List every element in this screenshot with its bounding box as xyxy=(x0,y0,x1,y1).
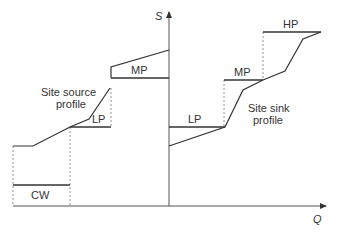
site-profiles-diagram: S Q MP LP CW Site source profile LP MP H… xyxy=(0,0,337,234)
source-cw-label: CW xyxy=(31,189,50,201)
site-sink-profile-curve xyxy=(169,32,321,146)
source-mp-label: MP xyxy=(131,64,148,76)
sink-hp-label: HP xyxy=(283,18,298,30)
site-sink-profile-label-2: profile xyxy=(253,114,283,126)
site-source-profile-label: Site source xyxy=(41,86,96,98)
site-source-profile-label-2: profile xyxy=(56,98,86,110)
sink-mp-label: MP xyxy=(234,66,251,78)
s-axis-label: S xyxy=(155,10,163,22)
site-sink-profile-label: Site sink xyxy=(248,102,290,114)
sink-lp-label: LP xyxy=(188,113,201,125)
q-axis-label: Q xyxy=(313,213,322,225)
source-lp-label: LP xyxy=(92,113,105,125)
